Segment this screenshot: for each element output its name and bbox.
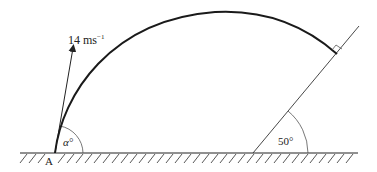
launch-angle-label: α° <box>63 136 74 148</box>
point-a-label: A <box>45 155 53 167</box>
ground-hatching <box>20 154 353 163</box>
velocity-label: 14 ms−1 <box>68 33 105 47</box>
inclined-plane <box>253 26 359 153</box>
projectile-diagram: 14 ms−1 α° 50° A <box>0 0 377 172</box>
incline-angle-label: 50° <box>278 135 293 147</box>
